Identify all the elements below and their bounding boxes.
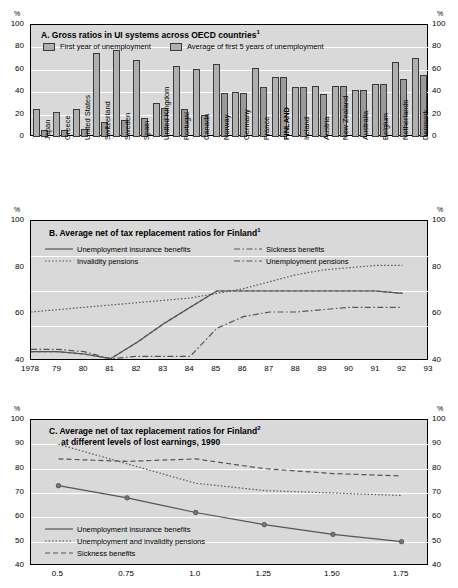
panel-c-xtick: 1.25 — [248, 569, 278, 578]
panel-b-line — [31, 307, 402, 358]
panel-c-ytick: 70 — [6, 487, 24, 496]
panel-b-ytick: 100 — [6, 215, 24, 224]
panel-c-ytick: 80 — [6, 463, 24, 472]
panel-a-legend-label-1: First year of unemployment — [60, 42, 151, 51]
panel-b-xtick: 86 — [231, 364, 253, 373]
panel-c-plot: C. Average net of tax replacement ratios… — [30, 419, 428, 565]
panel-b-xtick: 84 — [178, 364, 200, 373]
panel-c-ytick-right: 90 — [432, 438, 450, 447]
panel-c-ytick: 100 — [6, 414, 24, 423]
panel-a-bar — [352, 90, 359, 137]
panel-c-ytick: 90 — [6, 438, 24, 447]
panel-c-ytick-right: 60 — [432, 511, 450, 520]
panel-a-category-label: Japan — [43, 120, 52, 140]
panel-a-ytick: 60 — [6, 64, 24, 73]
panel-c-ytick-right: 80 — [432, 463, 450, 472]
panel-a-ytick: 20 — [6, 109, 24, 118]
panel-b-ytick-right: 60 — [432, 308, 450, 317]
panel-b-plot: B. Average net of tax replacement ratios… — [30, 220, 428, 360]
panel-a-left-unit: % — [14, 10, 20, 17]
panel-a-category-label: Canada — [202, 114, 211, 140]
panel-c-xtick: 1.75 — [386, 569, 416, 578]
panel-b-xtick: 88 — [284, 364, 306, 373]
panel-a-legend-swatch-2 — [170, 43, 182, 51]
panel-b-ytick-right: 40 — [432, 355, 450, 364]
panel-a-category-label: Australia — [361, 111, 370, 140]
panel-c-ytick-right: 50 — [432, 536, 450, 545]
panel-b-right-unit: % — [437, 206, 443, 213]
panel-a-bar — [332, 86, 339, 138]
panel-b-xtick: 93 — [417, 364, 439, 373]
panel-a-bar — [153, 103, 160, 137]
panel-a-bar — [292, 87, 299, 137]
panel-a-bar — [53, 112, 60, 137]
panel-a-category-label: France — [262, 117, 271, 140]
panel-a-ytick-right: 20 — [432, 109, 450, 118]
panel-c-ytick: 50 — [6, 536, 24, 545]
panel-c-ytick-right: 70 — [432, 487, 450, 496]
panel-c-marker — [399, 539, 403, 543]
panel-b-series — [31, 221, 429, 361]
panel-a-ytick-right: 0 — [432, 131, 450, 140]
panel-a-bar — [232, 92, 239, 137]
panel-c-xtick: 1.0 — [180, 569, 210, 578]
panel-c-ytick-right: 100 — [432, 414, 450, 423]
panel-b-xtick: 92 — [391, 364, 413, 373]
panel-c-ytick: 60 — [6, 511, 24, 520]
panel-c-left-unit: % — [14, 405, 20, 412]
panel-a-bar — [113, 50, 120, 137]
panel-a-bar — [173, 66, 180, 137]
panel-b-line — [31, 291, 402, 359]
panel-a-category-label: Sweden — [123, 113, 132, 140]
panel-a-category-label: Germany — [242, 109, 251, 140]
panel-a-category-label: Netherlands — [401, 100, 410, 140]
panel-c-right-unit: % — [437, 405, 443, 412]
panel-b-xtick: 85 — [205, 364, 227, 373]
panel-a-ytick: 0 — [6, 131, 24, 140]
panel-a-bar — [412, 58, 419, 138]
panel-a-category-label: Spain — [142, 121, 151, 140]
panel-c-ytick: 40 — [6, 560, 24, 569]
panel-a-legend-label-2: Average of first 5 years of unemployment — [187, 42, 324, 51]
panel-b-xtick: 90 — [337, 364, 359, 373]
panel-a-category-label: Belgium — [381, 113, 390, 140]
panel-a-ytick: 40 — [6, 86, 24, 95]
panel-a-category-label: Austria — [322, 117, 331, 140]
panel-c-marker — [56, 484, 60, 488]
figure-page: % % A. Gross ratios in UI systems across… — [0, 0, 458, 588]
panel-a-ytick-right: 40 — [432, 86, 450, 95]
panel-a-bar — [372, 84, 379, 137]
panel-b-xtick: 89 — [311, 364, 333, 373]
panel-b-ytick-right: 100 — [432, 215, 450, 224]
panel-a-ytick-right: 60 — [432, 64, 450, 73]
panel-c-marker — [125, 496, 129, 500]
panel-a-category-label: United Kingdom — [162, 87, 171, 140]
panel-a-ytick: 100 — [6, 19, 24, 28]
panel-b-left-unit: % — [14, 206, 20, 213]
panel-b-line — [31, 291, 402, 359]
panel-a-category-label: FINLAND — [282, 107, 291, 140]
panel-a-bar — [193, 69, 200, 137]
panel-a-title: A. Gross ratios in UI systems across OEC… — [41, 29, 260, 40]
panel-b-xtick: 1978 — [19, 364, 41, 373]
panel-a-bar — [33, 109, 40, 137]
panel-a-bar — [213, 64, 220, 137]
panel-a-category-label: Portugal — [182, 112, 191, 140]
panel-c-line — [58, 459, 401, 476]
panel-a-right-unit: % — [437, 10, 443, 17]
panel-a-bar — [252, 68, 259, 137]
panel-c: % % C. Average net of tax replacement ra… — [0, 400, 458, 588]
panel-a-bar — [392, 62, 399, 137]
panel-a-bar — [133, 60, 140, 137]
panel-c-line — [58, 444, 401, 495]
panel-b-xtick: 80 — [72, 364, 94, 373]
panel-a-ytick-right: 100 — [432, 19, 450, 28]
panel-c-marker — [262, 522, 266, 526]
panel-c-xtick: 1.50 — [317, 569, 347, 578]
panel-a-bar — [272, 77, 279, 138]
panel-b-ytick: 40 — [6, 355, 24, 364]
panel-a-ytick: 80 — [6, 41, 24, 50]
panel-b-xtick: 81 — [99, 364, 121, 373]
panel-a-category-label: Greece — [63, 115, 72, 140]
panel-a-category-label: Denmark — [421, 110, 430, 140]
